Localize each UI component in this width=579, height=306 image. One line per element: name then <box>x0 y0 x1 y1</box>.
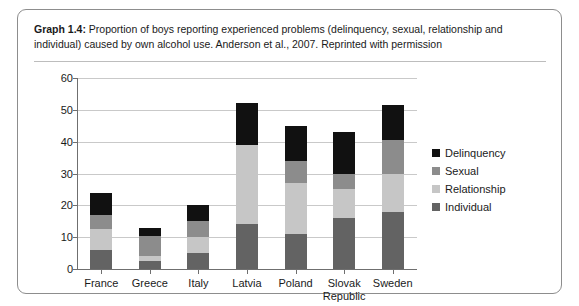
bar-segment[interactable] <box>236 103 258 144</box>
bar-segment[interactable] <box>285 161 307 183</box>
bar-segment[interactable] <box>139 228 161 236</box>
x-axis-tick-mark <box>150 270 151 274</box>
y-axis-tick-label: 40 <box>33 136 73 148</box>
bar-segment[interactable] <box>285 183 307 234</box>
caption-divider <box>34 61 546 62</box>
bar-segment[interactable] <box>236 145 258 225</box>
x-axis-tick-mark <box>101 270 102 274</box>
bar-segment[interactable] <box>90 193 112 215</box>
legend-item[interactable]: Individual <box>432 198 547 216</box>
bar-segment[interactable] <box>382 174 404 212</box>
bar-stack[interactable] <box>382 105 404 269</box>
bar-segment[interactable] <box>333 218 355 269</box>
x-axis-tick-mark <box>247 270 248 274</box>
legend-label: Sexual <box>445 165 479 177</box>
x-axis-tick-mark <box>296 270 297 274</box>
y-axis-tick-mark <box>73 269 77 270</box>
y-axis-tick-label: 10 <box>33 231 73 243</box>
bar-stack[interactable] <box>139 228 161 269</box>
y-axis-tick-mark <box>73 205 77 206</box>
bar-stack[interactable] <box>333 132 355 269</box>
bar-segment[interactable] <box>187 221 209 237</box>
x-axis-tick-mark <box>344 270 345 274</box>
y-axis-tick-label: 0 <box>33 263 73 275</box>
legend-swatch-icon <box>432 203 440 211</box>
legend-item[interactable]: Relationship <box>432 180 547 198</box>
y-axis-tick-label: 50 <box>33 104 73 116</box>
legend-swatch-icon <box>432 185 440 193</box>
bar-segment[interactable] <box>187 205 209 221</box>
bar-segment[interactable] <box>382 140 404 173</box>
bar-stack[interactable] <box>285 126 307 269</box>
bar-stack[interactable] <box>90 193 112 269</box>
bar-stack[interactable] <box>187 205 209 269</box>
plot-frame: 0102030405060 FranceGreeceItalyLatviaPol… <box>77 78 417 270</box>
bar-segment[interactable] <box>90 229 112 250</box>
legend-label: Individual <box>445 201 491 213</box>
legend-label: Relationship <box>445 183 506 195</box>
bar-segment[interactable] <box>187 253 209 269</box>
bar-stack[interactable] <box>236 103 258 269</box>
bar-segment[interactable] <box>285 126 307 161</box>
y-axis-tick-label: 20 <box>33 199 73 211</box>
legend-swatch-icon <box>432 167 440 175</box>
chart-legend: DelinquencySexualRelationshipIndividual <box>432 144 547 216</box>
x-axis-tick-mark <box>393 270 394 274</box>
bar-segment[interactable] <box>333 132 355 173</box>
figure-caption: Graph 1.4: Proportion of boys reporting … <box>34 22 546 52</box>
bar-segment[interactable] <box>382 105 404 140</box>
y-axis-tick-mark <box>73 78 77 79</box>
legend-swatch-icon <box>432 149 440 157</box>
legend-item[interactable]: Sexual <box>432 162 547 180</box>
y-axis-tick-mark <box>73 110 77 111</box>
y-axis-tick-mark <box>73 174 77 175</box>
x-axis-tick-label: Sweden <box>358 277 428 290</box>
y-axis-tick-label: 30 <box>33 168 73 180</box>
bar-segment[interactable] <box>333 174 355 190</box>
bar-segment[interactable] <box>139 236 161 257</box>
bar-segment[interactable] <box>333 189 355 218</box>
bar-segment[interactable] <box>139 261 161 269</box>
figure-container: Graph 1.4: Proportion of boys reporting … <box>17 9 562 294</box>
bar-segment[interactable] <box>90 250 112 269</box>
gridline <box>77 78 417 79</box>
bar-segment[interactable] <box>90 215 112 229</box>
y-axis-tick-label: 60 <box>33 72 73 84</box>
caption-label: Graph 1.4: <box>34 23 86 35</box>
bar-segment[interactable] <box>187 237 209 253</box>
bar-segment[interactable] <box>236 224 258 269</box>
y-axis-line <box>77 78 78 270</box>
bar-segment[interactable] <box>285 234 307 269</box>
caption-text: Proportion of boys reporting experienced… <box>34 23 503 50</box>
y-axis-tick-mark <box>73 142 77 143</box>
y-axis-tick-mark <box>73 237 77 238</box>
legend-item[interactable]: Delinquency <box>432 144 547 162</box>
bar-segment[interactable] <box>382 212 404 269</box>
chart-plot-area: 0102030405060 FranceGreeceItalyLatviaPol… <box>77 78 417 270</box>
x-axis-tick-mark <box>198 270 199 274</box>
legend-label: Delinquency <box>445 147 506 159</box>
